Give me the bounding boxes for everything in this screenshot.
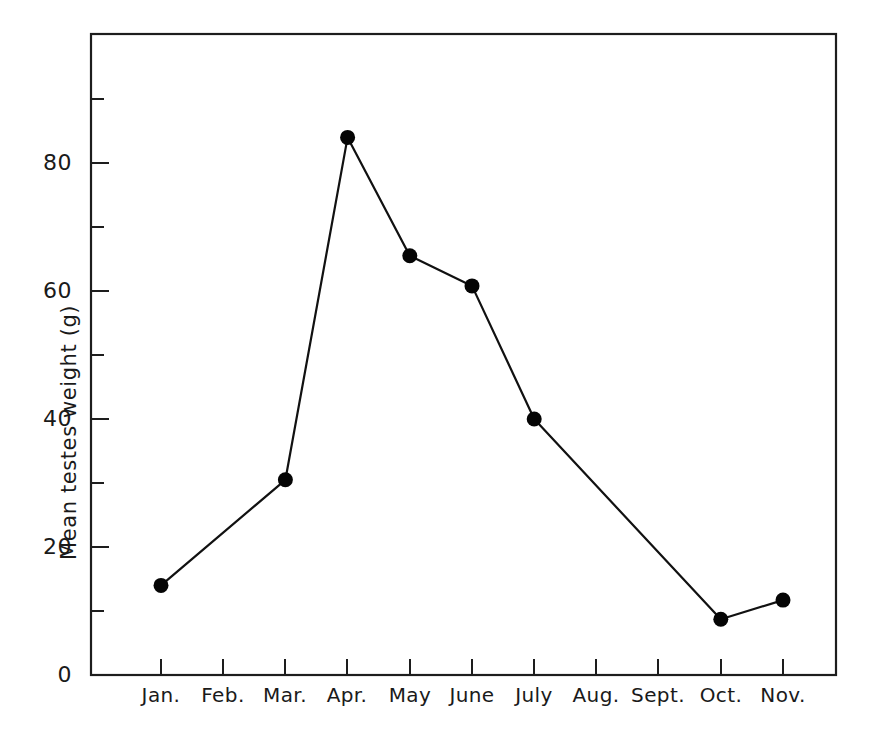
y-axis-title: Mean testes weight (g) (52, 140, 86, 560)
plot-frame (91, 34, 836, 675)
y-tick-label-0: 0 (18, 664, 72, 686)
series-markers (154, 130, 791, 627)
x-tick-label-nov: Nov. (738, 684, 828, 706)
y-tick-label-20: 20 (18, 536, 72, 558)
plot-area (0, 0, 871, 734)
data-point (713, 612, 728, 627)
data-point (527, 412, 542, 427)
data-series (154, 130, 791, 627)
data-point (278, 472, 293, 487)
data-point (340, 130, 355, 145)
y-tick-label-80: 80 (18, 152, 72, 174)
y-tick-label-40: 40 (18, 408, 72, 430)
x-axis-ticks (161, 659, 783, 675)
y-minor-ticks (91, 99, 104, 611)
data-point (154, 578, 169, 593)
chart-figure: Mean testes weight (g) 80 60 40 20 0 Jan… (0, 0, 871, 734)
data-point (402, 248, 417, 263)
y-tick-label-60: 60 (18, 280, 72, 302)
series-line (161, 137, 783, 619)
data-point (465, 278, 480, 293)
data-point (776, 593, 791, 608)
